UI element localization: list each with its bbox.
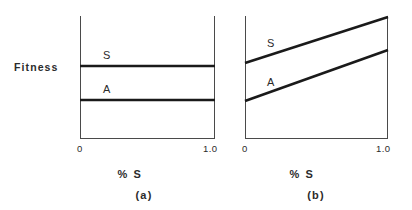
panel-b: S A 0 1.0 % S (b) (242, 16, 390, 201)
panel-b-x-axis-title: % S (290, 168, 315, 180)
panel-a-series-s-label: S (103, 49, 110, 61)
panel-a-xtick-1: 1.0 (203, 143, 217, 154)
figure-container: Fitness S A 0 1.0 % S (a) (0, 0, 412, 210)
y-axis-label: Fitness (14, 61, 58, 73)
panel-b-xtick-0: 0 (242, 143, 248, 154)
panel-b-xtick-1: 1.0 (376, 143, 390, 154)
panel-a-x-axis-title: % S (118, 168, 143, 180)
panel-a-caption: (a) (135, 189, 152, 201)
figure-svg: Fitness S A 0 1.0 % S (a) (0, 0, 412, 210)
panel-b-series-s-label: S (267, 37, 274, 49)
panel-a-series-a-label: A (103, 83, 111, 95)
panel-b-series-a-label: A (267, 76, 275, 88)
panel-a-xtick-0: 0 (77, 143, 83, 154)
panel-b-caption: (b) (307, 189, 325, 201)
panel-a: S A 0 1.0 % S (a) (77, 16, 217, 201)
